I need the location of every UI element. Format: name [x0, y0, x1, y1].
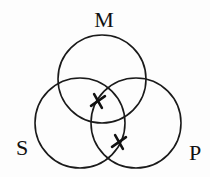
venn-svg: M S P — [0, 0, 210, 177]
label-m: M — [94, 7, 114, 32]
x-mark-icon — [91, 94, 105, 108]
circle-s — [35, 78, 125, 168]
label-p: P — [189, 140, 201, 165]
label-s: S — [16, 135, 28, 160]
venn-diagram: M S P — [0, 0, 210, 177]
